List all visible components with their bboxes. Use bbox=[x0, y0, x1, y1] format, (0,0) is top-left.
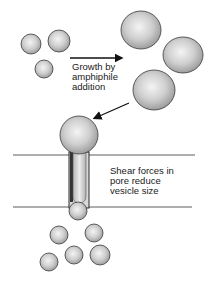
extruding-vesicle-head bbox=[60, 116, 98, 154]
small-vesicle bbox=[48, 30, 70, 52]
daughter-vesicle bbox=[90, 245, 110, 265]
small-vesicle bbox=[35, 60, 53, 78]
grown-vesicles-group bbox=[121, 11, 203, 110]
grown-vesicle bbox=[121, 11, 161, 49]
daughter-vesicle bbox=[50, 226, 68, 244]
daughter-vesicle bbox=[65, 246, 83, 264]
small-vesicle bbox=[21, 34, 41, 54]
pore-group bbox=[60, 116, 98, 220]
vesicle-stem bbox=[73, 150, 86, 203]
grown-vesicle bbox=[133, 70, 175, 110]
vesicle-diagram: Growth by amphiphile addition Shear forc… bbox=[0, 0, 212, 285]
pore-exit-vesicle bbox=[69, 202, 87, 220]
growth-label: Growth by amphiphile addition bbox=[72, 61, 121, 92]
transfer-arrow-icon bbox=[95, 103, 129, 118]
daughter-vesicle bbox=[40, 253, 58, 271]
daughter-vesicles-group bbox=[40, 224, 110, 271]
pore-inner-shadow bbox=[70, 152, 73, 202]
daughter-vesicle bbox=[85, 224, 103, 242]
shear-label: Shear forces in pore reduce vesicle size bbox=[110, 165, 177, 196]
small-vesicles-group bbox=[21, 30, 70, 78]
grown-vesicle bbox=[163, 37, 203, 73]
